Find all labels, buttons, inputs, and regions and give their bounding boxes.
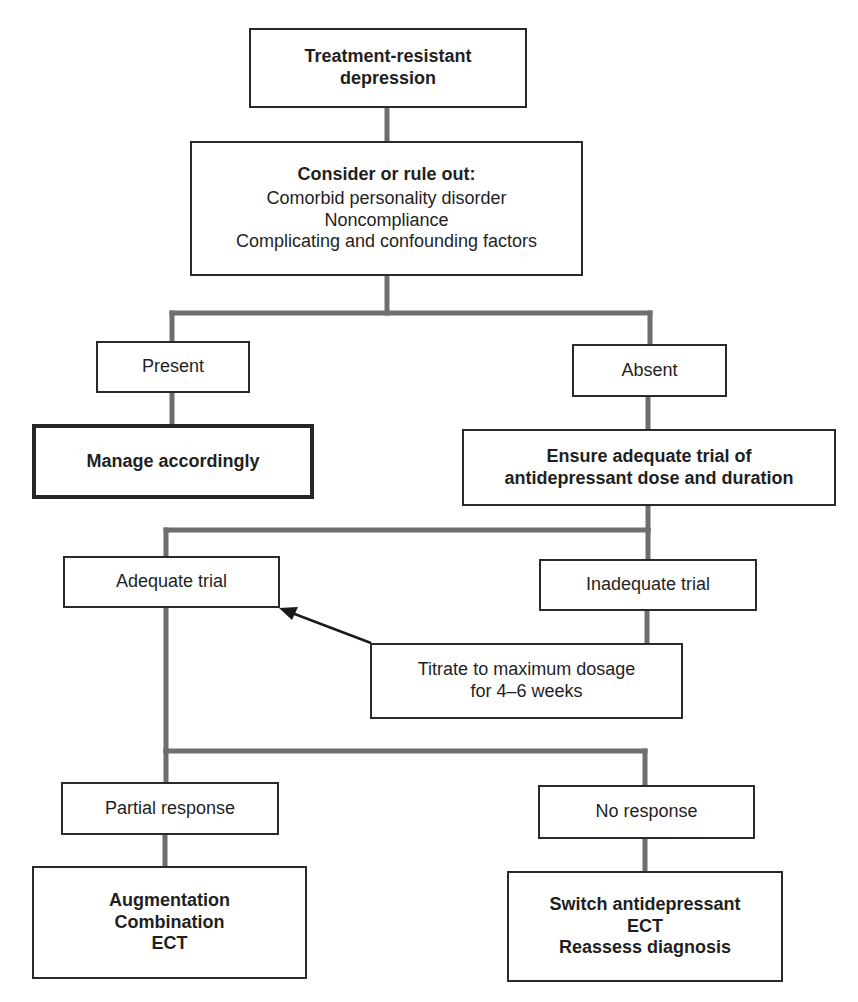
node-partial-response-actions: Augmentation Combination ECT (32, 866, 307, 979)
node-present: Present (96, 341, 250, 393)
node-no-response-actions: Switch antidepressant ECT Reassess diagn… (507, 871, 783, 982)
node-text: Ensure adequate trial of (546, 446, 751, 468)
node-text: Titrate to maximum dosage (418, 659, 635, 681)
node-text: Adequate trial (116, 571, 227, 593)
node-no-response: No response (538, 785, 755, 839)
node-inadequate-trial: Inadequate trial (539, 559, 757, 611)
node-text: Partial response (105, 798, 235, 820)
node-text: for 4–6 weeks (470, 681, 582, 703)
node-text: antidepressant dose and duration (504, 468, 793, 490)
node-item: Comorbid personality disorder (266, 188, 506, 210)
node-text: Treatment-resistant (304, 46, 471, 68)
arrow-titrate-to-adequate (279, 607, 371, 643)
node-partial-response: Partial response (61, 782, 279, 835)
node-text: Manage accordingly (86, 451, 259, 473)
node-titrate: Titrate to maximum dosage for 4–6 weeks (370, 643, 683, 719)
node-text: No response (595, 801, 697, 823)
node-heading: Consider or rule out: (297, 164, 475, 186)
node-text: Combination (115, 912, 225, 934)
node-text: Switch antidepressant (549, 894, 740, 916)
node-text: depression (340, 68, 436, 90)
node-text: ECT (627, 916, 663, 938)
node-manage-accordingly: Manage accordingly (32, 424, 314, 499)
node-consider-rule-out: Consider or rule out: Comorbid personali… (190, 141, 583, 276)
node-item: Complicating and confounding factors (236, 231, 537, 253)
node-text: Augmentation (109, 890, 230, 912)
node-text: Present (142, 356, 204, 378)
node-text: ECT (152, 933, 188, 955)
node-text: Absent (621, 360, 677, 382)
node-absent: Absent (572, 344, 727, 397)
node-treatment-resistant-depression: Treatment-resistant depression (249, 28, 527, 108)
node-item: Noncompliance (324, 210, 448, 232)
node-text: Inadequate trial (586, 574, 710, 596)
node-ensure-adequate-trial: Ensure adequate trial of antidepressant … (462, 429, 836, 506)
node-adequate-trial: Adequate trial (63, 556, 280, 608)
node-text: Reassess diagnosis (559, 937, 731, 959)
